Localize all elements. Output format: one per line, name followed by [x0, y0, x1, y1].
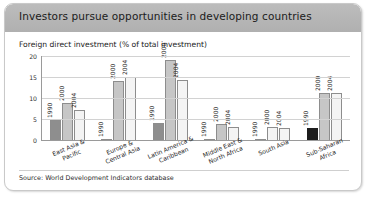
- figure-title-bar: Investors pursue opportunities in develo…: [5, 4, 361, 32]
- source-note: Source: World Development Indicators dat…: [19, 174, 174, 182]
- figure-subtitle: Foreign direct investment (% of total in…: [19, 40, 207, 49]
- bar-year-label: 1990: [98, 121, 104, 136]
- gridline: [42, 56, 350, 57]
- bar: [319, 93, 330, 140]
- bar-year-label: 1990: [252, 121, 258, 136]
- bar: [50, 120, 61, 140]
- bar: [267, 127, 278, 140]
- y-tick-label: 10: [29, 95, 37, 102]
- bar-year-label: 1990: [201, 122, 207, 137]
- bar: [153, 123, 164, 140]
- bar: [307, 128, 318, 140]
- bar-year-label: 1990: [47, 103, 53, 118]
- bar-year-label: 2000: [213, 107, 219, 122]
- bar: [204, 139, 215, 140]
- y-tick-label: 0: [33, 137, 37, 144]
- x-category: Middle East & North Africa: [195, 142, 246, 182]
- bar: [177, 80, 188, 140]
- y-tick-label: 15: [29, 74, 37, 81]
- bar: [216, 124, 227, 140]
- bar-year-label: 2004: [225, 109, 231, 124]
- bar: [74, 110, 85, 140]
- bar: [101, 139, 112, 140]
- bar: [125, 77, 136, 140]
- bar: [113, 81, 124, 140]
- bar-year-label: 2000: [264, 110, 270, 125]
- bar-year-label: 2000: [59, 86, 65, 101]
- gridline: [42, 77, 350, 78]
- y-tick-label: 20: [29, 53, 37, 60]
- x-category: Sub-Saharan Africa: [298, 142, 349, 182]
- bar-year-label: 2004: [71, 93, 77, 108]
- chart: 05101520 1990200020041990200020041990200…: [19, 56, 349, 156]
- gridline: [42, 98, 350, 99]
- y-tick-label: 5: [33, 116, 37, 123]
- bar: [255, 139, 266, 140]
- gridline: [42, 119, 350, 120]
- figure-title: Investors pursue opportunities in develo…: [19, 10, 312, 22]
- figure-panel: Investors pursue opportunities in develo…: [4, 3, 362, 191]
- y-axis-ticks: 05101520: [19, 56, 39, 140]
- plot-area: 1990200020041990200020041990200020041990…: [41, 56, 350, 141]
- x-category: South Asia: [246, 142, 297, 182]
- bar: [62, 103, 73, 140]
- bar-year-label: 2004: [122, 60, 128, 75]
- bar: [331, 93, 342, 140]
- bar-year-label: 2000: [315, 76, 321, 91]
- source-divider: [19, 170, 349, 171]
